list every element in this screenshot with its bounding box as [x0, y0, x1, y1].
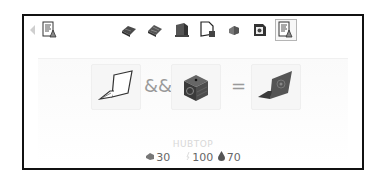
output-slot-hubtop[interactable] [251, 64, 301, 110]
module-icon[interactable] [250, 20, 270, 40]
stat-energy-value: 100 [192, 151, 213, 164]
back-arrow-icon[interactable] [30, 25, 35, 35]
category-toolbar [24, 16, 362, 44]
recipe-panel: && = HUBTOP 30 [38, 58, 348, 163]
recipe-book-icon[interactable] [40, 20, 60, 40]
laptop-outline-icon [96, 67, 136, 107]
stat-drop-value: 70 [227, 151, 241, 164]
green-circuit-board-icon[interactable] [119, 20, 139, 40]
item-stats: 30 100 70 [38, 150, 348, 164]
ore-icon [145, 151, 155, 164]
stat-ore-value: 30 [156, 151, 170, 164]
ore-chunk-icon[interactable] [224, 20, 244, 40]
recipe-book-icon-selected[interactable] [276, 20, 296, 40]
hub-block-icon [176, 67, 216, 107]
input-slot-laptop[interactable] [91, 64, 141, 110]
drop-icon [217, 150, 226, 164]
machine-frame-icon[interactable] [172, 20, 192, 40]
input-slot-hub[interactable] [171, 64, 221, 110]
energy-icon [185, 151, 191, 164]
item-name: HUBTOP [38, 139, 348, 149]
hubtop-laptop-icon [256, 67, 296, 107]
blue-circuit-board-icon[interactable] [145, 20, 165, 40]
crafting-window: && = HUBTOP 30 [22, 14, 364, 170]
document-with-block-icon[interactable] [198, 20, 218, 40]
combine-operator: && [144, 75, 172, 96]
equals-operator: = [231, 75, 246, 96]
